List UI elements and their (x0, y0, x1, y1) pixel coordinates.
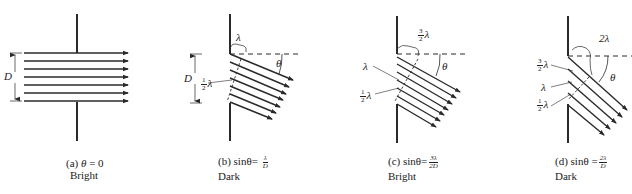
caption-panel-a: (a) θ = 0 Bright (66, 157, 104, 181)
path-difference-half-lambda: 12λ (200, 77, 212, 92)
path-difference-lambda: λ (236, 32, 241, 43)
panel-a-drawing (10, 14, 128, 141)
path-difference-lambda: λ (541, 82, 546, 93)
angle-arc (599, 56, 608, 82)
caption-condition: (d) sinθ =2λD (555, 155, 608, 167)
lambda-leader (551, 82, 572, 87)
caption-result: Dark (555, 170, 608, 182)
caption-result: Bright (388, 170, 440, 182)
path-difference-half-lambda: 12λ (359, 89, 371, 104)
theta-label: θ (442, 61, 447, 72)
slit-width-label: D (184, 73, 192, 84)
caption-condition: (c) sinθ=3λ2D (388, 155, 440, 167)
caption-panel-d: (d) sinθ =2λD Dark (555, 155, 608, 182)
slit-width-label: D (4, 71, 12, 82)
panel-d-drawing (551, 16, 632, 143)
ray-group (568, 57, 627, 135)
theta-label: θ (276, 58, 281, 69)
caption-condition: (b) sinθ= λD (218, 155, 270, 167)
path-difference-two-lambda: 2λ (599, 33, 609, 44)
path-difference-lambda: λ (363, 61, 368, 72)
lambda-leader (373, 66, 399, 80)
ray-group (397, 57, 460, 127)
path-difference-three-half-lambda: 32λ (417, 28, 429, 43)
caption-result: Bright (66, 169, 104, 181)
caption-result: Dark (218, 170, 270, 182)
caption-panel-c: (c) sinθ=3λ2D Bright (388, 155, 440, 182)
ray-group (24, 53, 128, 101)
angle-arc (436, 54, 440, 76)
path-difference-half-lambda: 12λ (536, 98, 548, 113)
path-difference-three-half-lambda: 32λ (536, 58, 548, 73)
caption-condition: (a) θ = 0 (66, 157, 104, 169)
theta-label: θ (610, 72, 615, 83)
half-lambda-leader (375, 88, 399, 94)
two-lambda-brace (572, 46, 592, 75)
lambda-brace (230, 44, 246, 52)
caption-panel-b: (b) sinθ= λD Dark (218, 155, 270, 182)
three-half-lambda-leader (551, 65, 573, 71)
